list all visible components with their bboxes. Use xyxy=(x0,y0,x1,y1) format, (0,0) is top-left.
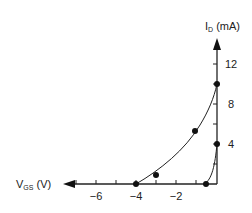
x-tick-label: −6 xyxy=(90,190,103,202)
data-point xyxy=(203,181,209,187)
x-tick-label: −4 xyxy=(130,190,143,202)
x-tick-label: −2 xyxy=(170,190,183,202)
y-tick-label: 12 xyxy=(225,58,237,70)
x-axis-label: VGS(V) xyxy=(16,178,51,191)
data-point xyxy=(214,141,220,147)
data-point xyxy=(133,181,139,187)
y-axis-arrow-icon xyxy=(213,38,221,50)
y-axis-label: ID(mA) xyxy=(205,20,240,33)
data-point xyxy=(214,81,220,87)
x-axis-arrow-icon xyxy=(63,180,75,188)
y-tick-label: 8 xyxy=(228,98,234,110)
y-tick-label: 4 xyxy=(228,138,234,150)
curve-1 xyxy=(136,84,217,184)
data-points xyxy=(133,81,220,187)
chart: −6 −4 −2 4 8 12 ID(mA) VGS(V) xyxy=(0,0,252,213)
data-point xyxy=(153,172,159,178)
data-point xyxy=(192,128,198,134)
